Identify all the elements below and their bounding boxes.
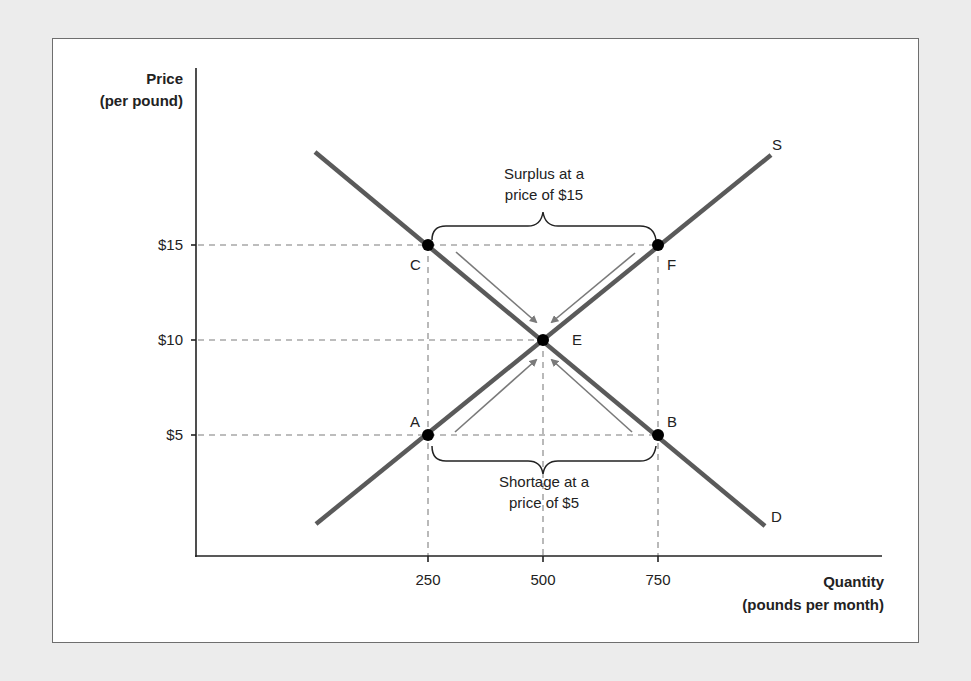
arrow-from-a-icon <box>455 360 536 432</box>
point-e <box>537 334 549 346</box>
point-c <box>422 239 434 251</box>
arrow-from-f-icon <box>552 253 635 322</box>
surplus-label-line2: price of $15 <box>505 186 583 203</box>
shortage-label-line1: Shortage at a <box>499 473 590 490</box>
x-tick-label-750: 750 <box>645 571 670 588</box>
point-label-a: A <box>410 413 420 430</box>
point-label-b: B <box>667 413 677 430</box>
point-label-c: C <box>410 256 421 273</box>
x-axis-subtitle: (pounds per month) <box>742 596 884 613</box>
arrow-from-c-icon <box>456 252 536 322</box>
supply-curve-label: S <box>772 136 782 153</box>
surplus-label-line1: Surplus at a <box>504 165 585 182</box>
y-tick-label-10: $10 <box>158 331 183 348</box>
y-axis-title: Price <box>146 70 183 87</box>
page: C F E A B S D Surplus at a price of $15 … <box>0 0 971 681</box>
x-tick-label-500: 500 <box>530 571 555 588</box>
shortage-label-line2: price of $5 <box>509 494 579 511</box>
y-tick-label-5: $5 <box>166 426 183 443</box>
supply-demand-chart: C F E A B S D Surplus at a price of $15 … <box>0 0 971 681</box>
point-b <box>652 429 664 441</box>
y-axis-subtitle: (per pound) <box>100 92 183 109</box>
x-axis-title: Quantity <box>823 573 884 590</box>
arrow-from-b-icon <box>552 360 632 432</box>
y-tick-label-15: $15 <box>158 236 183 253</box>
point-label-f: F <box>667 256 676 273</box>
surplus-brace <box>432 212 656 240</box>
point-label-e: E <box>572 331 582 348</box>
point-f <box>652 239 664 251</box>
demand-curve-label: D <box>771 508 782 525</box>
point-a <box>422 429 434 441</box>
shortage-brace <box>432 446 656 474</box>
x-tick-label-250: 250 <box>415 571 440 588</box>
